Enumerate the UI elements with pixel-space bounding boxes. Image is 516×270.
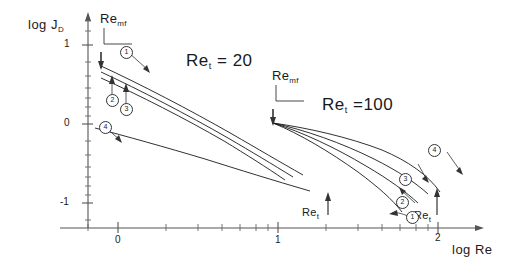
- re-t-marker-right: [434, 188, 440, 215]
- y-axis-title: log JD: [28, 18, 64, 31]
- re-t-marker-left: [325, 192, 331, 215]
- group-title-ret20-sub: t: [209, 61, 212, 71]
- re-mf-label-left-main: Re: [100, 11, 117, 26]
- re-mf-label-left-sub: mf: [117, 19, 127, 28]
- y-axis-title-main: log J: [28, 17, 58, 32]
- re-t-label-left: Ret: [302, 207, 319, 218]
- curve-left-3: [101, 78, 285, 180]
- curve-left-4: [95, 128, 310, 191]
- chart-figure: log JD log Re 1 0 -1 0 1 2 Ret = 20 Ret …: [0, 0, 516, 270]
- curve-marker-left-4: 4: [99, 121, 112, 134]
- x-tick-label-1: 1: [275, 235, 281, 245]
- group-title-ret100-main: Re: [322, 95, 345, 114]
- y-axis-arrowhead: [85, 12, 91, 21]
- re-mf-label-right-main: Re: [272, 68, 289, 83]
- y-axis-title-sub: D: [58, 25, 64, 34]
- x-axis-title: log Re: [452, 243, 493, 256]
- curve-marker-right-4: 4: [428, 144, 441, 157]
- x-tick-label-0: 0: [115, 235, 121, 245]
- group-title-ret20-val: = 20: [217, 51, 253, 70]
- y-tick-label-1: 1: [64, 39, 70, 49]
- x-axis-arrowhead: [475, 225, 484, 231]
- group-title-ret100-sub: t: [345, 105, 348, 115]
- curve-left-2: [101, 72, 293, 177]
- curve-right-1: [273, 123, 402, 212]
- curve-marker-right-1: 1: [406, 211, 419, 224]
- curve-marker-left-1: 1: [120, 46, 133, 59]
- re-mf-label-right-sub: mf: [289, 76, 299, 85]
- re-mf-marker-right: [270, 85, 304, 126]
- re-t-label-left-sub: t: [317, 212, 320, 221]
- y-tick-label-0: 0: [64, 118, 70, 128]
- re-mf-label-left: Remf: [100, 12, 127, 25]
- re-mf-label-right: Remf: [272, 69, 299, 82]
- x-tick-label-2: 2: [435, 233, 441, 243]
- re-t-label-left-main: Re: [302, 206, 317, 218]
- chart-canvas: [0, 0, 516, 270]
- group-title-ret100-val: =100: [353, 95, 393, 114]
- curve-marker-left-2: 2: [106, 94, 119, 107]
- curve-group-ret100: [273, 123, 440, 212]
- curve-marker-right-3: 3: [399, 173, 412, 186]
- group-title-ret100: Ret =100: [322, 96, 393, 113]
- group-title-ret20: Ret = 20: [186, 52, 253, 69]
- y-tick-label-neg1: -1: [60, 197, 69, 207]
- curve-right-4: [273, 123, 440, 192]
- curve-group-ret20: [95, 66, 310, 191]
- curve-marker-left-3: 3: [120, 103, 133, 116]
- re-t-label-right-sub: t: [429, 215, 432, 224]
- curve-marker-right-2: 2: [396, 196, 409, 209]
- group-title-ret20-main: Re: [186, 51, 209, 70]
